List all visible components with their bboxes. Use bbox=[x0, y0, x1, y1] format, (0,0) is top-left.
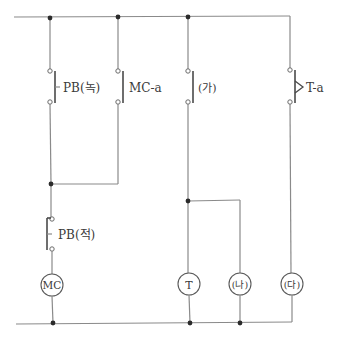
junction-dot bbox=[116, 15, 121, 20]
mc-coil-label: MC bbox=[43, 279, 62, 291]
mc-a-label: MC-a bbox=[129, 81, 162, 95]
branch-pb-start: PB(녹) bbox=[48, 17, 100, 184]
pb-start-label: PB(녹) bbox=[63, 81, 100, 95]
junction-dot bbox=[186, 15, 191, 20]
junction-dot bbox=[188, 321, 193, 326]
timer-delay-icon bbox=[295, 81, 303, 93]
da-label: (다) bbox=[284, 279, 300, 290]
terminal-bottom bbox=[186, 100, 190, 104]
terminal-top bbox=[48, 69, 52, 73]
junction-dot bbox=[49, 182, 54, 187]
terminal-bottom bbox=[288, 100, 292, 104]
t-a-label: T-a bbox=[306, 81, 324, 95]
terminal-top bbox=[288, 68, 292, 72]
junction-dot bbox=[51, 321, 56, 326]
bottom-bus bbox=[16, 322, 292, 324]
terminal-top bbox=[116, 69, 120, 73]
circuit-diagram: PB(녹) MC-a PB(적) MC (가) bbox=[0, 0, 338, 338]
junction-dots bbox=[48, 15, 243, 326]
terminal-bottom bbox=[48, 100, 52, 104]
t-coil-label: T bbox=[185, 279, 193, 292]
t-coil: T bbox=[178, 273, 200, 323]
branch-pb-stop: PB(적) bbox=[47, 184, 95, 274]
terminal-top bbox=[186, 69, 190, 73]
terminal-bottom bbox=[116, 100, 120, 104]
mc-coil: MC bbox=[41, 274, 63, 323]
ga-label: (가) bbox=[198, 82, 217, 95]
pb-stop-label: PB(적) bbox=[58, 228, 95, 242]
terminal-bottom bbox=[50, 247, 54, 251]
da-load: (다) bbox=[281, 273, 303, 322]
top-bus bbox=[14, 16, 290, 68]
junction-dot bbox=[48, 16, 53, 21]
na-label: (나) bbox=[232, 279, 248, 290]
junction-dot bbox=[238, 321, 243, 326]
junction-dot bbox=[186, 199, 191, 204]
branch-mc-a: MC-a bbox=[116, 17, 162, 184]
branch-t-a: T-a bbox=[288, 68, 324, 273]
branch-ga: (가) bbox=[186, 16, 217, 273]
branch-na bbox=[188, 200, 240, 273]
na-load: (나) bbox=[229, 273, 251, 323]
